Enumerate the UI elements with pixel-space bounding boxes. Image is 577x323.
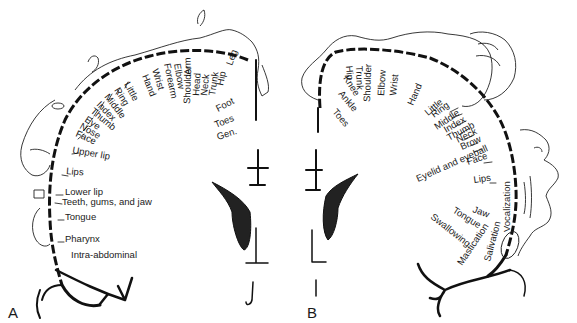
homunculus-diagram: Leg Hip Trunk Neck Head Shoulder Arm Elb… [0, 0, 577, 323]
panel-label-a: A [8, 304, 18, 321]
label-b-shoulder: Shoulder [361, 64, 373, 102]
ventricle-b [323, 174, 358, 240]
label-a-foot: Foot [214, 95, 236, 114]
label-a-tongue: Tongue [65, 211, 96, 222]
label-b-wrist: Wrist [387, 73, 400, 96]
panel-a: Leg Hip Trunk Neck Head Shoulder Arm Elb… [8, 10, 269, 321]
face-profile-a [21, 100, 55, 176]
panel-label-b: B [307, 304, 317, 321]
label-a-pharynx: Pharynx [65, 233, 100, 244]
label-a-teeth-gums-jaw: Teeth, gums, and jaw [62, 196, 152, 207]
label-b-hand: Hand [405, 82, 424, 107]
hand-b [470, 32, 516, 100]
label-a-intra-abdominal: Intra-abdominal [71, 249, 137, 260]
label-b-vocalization: Vocalization [501, 181, 512, 232]
ventricle-a [212, 182, 251, 250]
label-a-lips: Lips [66, 165, 85, 177]
label-b-lips: Lips [473, 172, 492, 185]
face-profile-b [518, 130, 558, 256]
panel-b: Toes Ankle Knee Hip Trunk Shoulder Elbow… [302, 32, 559, 321]
label-a-leg: Leg [224, 48, 240, 67]
label-b-elbow: Elbow [375, 69, 388, 96]
